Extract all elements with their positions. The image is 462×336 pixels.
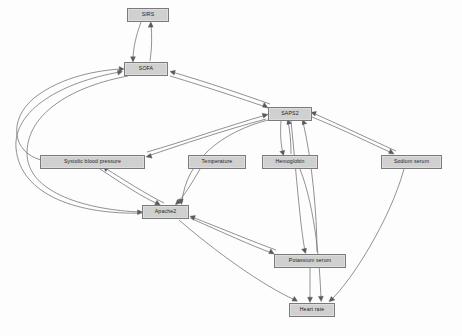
edge-hemoglobin-heartrate [300,169,323,302]
node-label: Heart rate [300,307,325,313]
node-apache2[interactable]: Apache2 [142,205,189,219]
edge-apache2-sofa [16,70,143,213]
edge-saps2-hemoglobin [280,120,292,156]
edge-path [150,23,152,61]
node-heart-rate[interactable]: Heart rate [289,303,335,317]
node-label: Potassium serum [289,258,331,264]
node-label: Hemoglobin [275,159,304,165]
node-potassium-serum[interactable]: Potassium serum [274,254,346,268]
arrowhead-icon [308,297,313,302]
node-sofa[interactable]: SOFA [124,62,168,76]
edge-potassium-heartrate [308,268,313,303]
diagram-canvas: SIRS SOFA SAPS2 Systolic blood pressure … [0,0,462,336]
arrowhead-icon [318,296,323,301]
node-label: Apache2 [155,209,177,215]
edge-path [147,115,266,152]
node-sirs[interactable]: SIRS [127,8,169,22]
node-label: Systolic blood pressure [64,159,121,165]
node-hemoglobin[interactable]: Hemoglobin [262,155,318,169]
edge-path [16,72,143,213]
node-label: SAPS2 [281,111,298,117]
arrowhead-icon [302,248,307,253]
edge-saps2-potassium [291,120,317,254]
edge-sofa-saps2 [170,70,270,108]
node-label: Sodium serum [394,159,429,165]
edge-path [291,121,305,251]
edge-sodium-heartrate [329,169,404,302]
edge-sofa-apache2 [27,76,143,215]
edge-path [148,119,266,156]
edge-path [170,76,266,107]
edge-path [303,122,317,252]
arrowhead-icon [148,22,153,27]
node-label: Temperature [202,159,233,165]
edge-path [281,121,283,154]
edge-sirs-sofa [131,22,154,62]
edge-path [312,117,392,153]
edge-path [190,218,272,253]
edge-path [17,69,122,160]
edge-path [133,22,141,61]
edge-path [288,121,291,154]
node-saps2[interactable]: SAPS2 [268,107,312,121]
edge-path [105,168,164,203]
arrowhead-icon [146,154,152,159]
node-label: SOFA [139,66,153,72]
edge-path [100,169,158,204]
edge-saps2-sodium [311,111,396,154]
edge-path [172,72,270,104]
edge-systolic-apache2 [100,167,164,205]
node-sodium-serum[interactable]: Sodium serum [381,155,442,169]
edge-path [192,217,276,250]
arrowhead-icon [117,70,122,75]
edge-path [177,169,200,203]
node-temperature[interactable]: Temperature [188,155,246,169]
edge-path [331,169,404,300]
node-systolic-blood-pressure[interactable]: Systolic blood pressure [40,155,145,169]
arrowhead-icon [170,70,175,75]
edge-path [313,113,396,151]
edge-apache2-potassium [190,216,276,255]
node-label: SIRS [142,12,155,18]
edge-path [300,169,321,299]
